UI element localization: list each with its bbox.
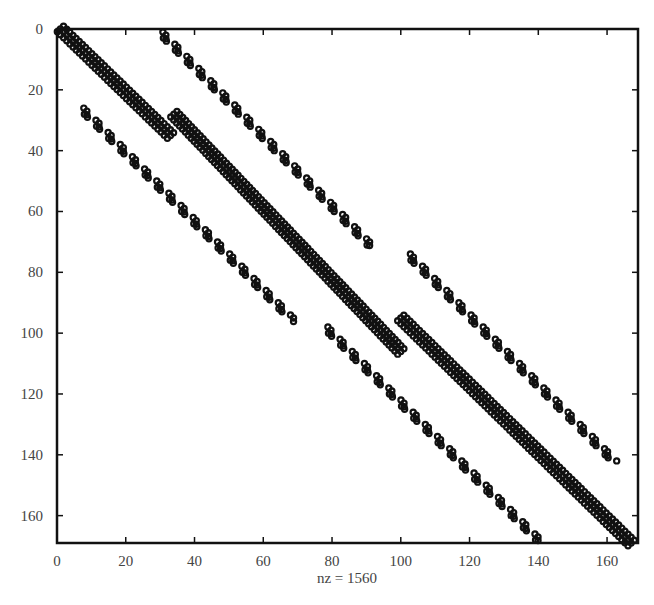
x-tick-label: 100: [390, 553, 413, 569]
x-tick-label: 120: [458, 553, 481, 569]
x-tick-label: 0: [53, 553, 61, 569]
y-tick-label: 160: [21, 508, 44, 524]
y-tick-label: 80: [28, 264, 43, 280]
nonzero-markers: [55, 24, 637, 549]
y-tick-label: 140: [21, 447, 44, 463]
x-tick-label: 140: [527, 553, 550, 569]
y-tick-label: 120: [21, 386, 44, 402]
x-tick-label: 80: [325, 553, 340, 569]
y-tick-label: 60: [28, 203, 43, 219]
y-tick-label: 0: [36, 21, 44, 37]
x-tick-label: 40: [187, 553, 202, 569]
sparsity-plot: 020406080100120140160 020406080100120140…: [0, 0, 654, 605]
y-tick-label: 100: [21, 325, 44, 341]
x-tick-label: 160: [596, 553, 619, 569]
y-tick-label: 40: [28, 143, 43, 159]
y-tick-label: 20: [28, 82, 43, 98]
main-diagonal-1: [55, 24, 176, 141]
x-tick-label: 20: [118, 553, 133, 569]
x-axis-label: nz = 1560: [317, 570, 377, 586]
x-tick-label: 60: [256, 553, 271, 569]
